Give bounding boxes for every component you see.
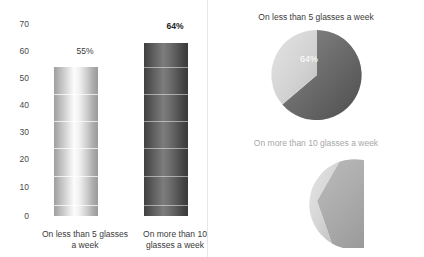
x-axis-category-line: glasses a week (130, 240, 220, 251)
y-axis-tick: 70 (20, 20, 29, 29)
bar-value-label: 55% (42, 46, 128, 56)
x-axis-category-line: On less than 5 glasses (40, 229, 130, 240)
pie-chart-block: On less than 5 glasses a week (208, 4, 424, 130)
x-axis-category-label: On less than 5 glasses a week (40, 229, 130, 251)
bar-group: 55% (42, 26, 128, 216)
bar-gridline (144, 67, 188, 68)
y-axis: 70 60 50 40 30 20 10 0 (0, 0, 32, 257)
pie-chart: 64% (270, 28, 364, 122)
bar-gridline (144, 148, 188, 149)
bar-gridline (54, 121, 98, 122)
pie-chart-title: On less than 5 glasses a week (208, 12, 424, 22)
pie-value-label: 64% (300, 54, 318, 64)
bar (144, 43, 188, 216)
x-axis-category-label: On more than 10 glasses a week (130, 229, 220, 251)
bar-gridline (54, 176, 98, 177)
bar-gridline (144, 121, 188, 122)
y-axis-tick: 30 (20, 128, 29, 137)
bar-chart-panel: 70 60 50 40 30 20 10 0 55% (0, 0, 208, 257)
y-axis-tick: 0 (24, 212, 29, 221)
bar (54, 67, 98, 216)
pie-chart-title: On more than 10 glasses a week (208, 138, 424, 148)
y-axis-tick: 40 (20, 101, 29, 110)
bar-gridline (144, 205, 188, 206)
bar-value-label: 64% (132, 21, 218, 31)
bar-gridline (54, 205, 98, 206)
y-axis-tick: 50 (20, 74, 29, 83)
pie-chart-block: On more than 10 glasses a week (208, 130, 424, 257)
bar-group: 64% (132, 26, 218, 216)
pie-svg (270, 28, 364, 122)
pie-chart: 55% (270, 154, 364, 248)
pie-value-label: 55% (288, 211, 306, 221)
bar-gridline (144, 176, 188, 177)
pie-charts-panel: On less than 5 glasses a week (208, 0, 424, 257)
chart-figure: 70 60 50 40 30 20 10 0 55% (0, 0, 424, 257)
y-axis-tick: 60 (20, 47, 29, 56)
x-axis-category-line: a week (40, 240, 130, 251)
x-axis-category-line: On more than 10 (130, 229, 220, 240)
bar-gridline (54, 94, 98, 95)
y-axis-tick: 20 (20, 155, 29, 164)
bar-plot-area: 55% 64% (32, 0, 207, 257)
bar-gridline (54, 148, 98, 149)
pie-svg (270, 154, 364, 248)
y-axis-tick: 10 (20, 183, 29, 192)
bar-gridline (144, 94, 188, 95)
